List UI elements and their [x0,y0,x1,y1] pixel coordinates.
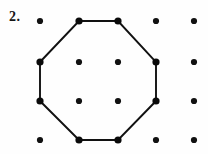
octagon-shape [40,21,156,140]
lattice-dot [191,59,197,65]
octagon-vertex-dot [75,17,82,24]
lattice-dot [115,98,121,104]
octagon-vertex-dot [152,97,159,104]
dot-lattice-diagram [0,0,208,154]
octagon-vertex-dot [36,97,43,104]
octagon-vertex-dot [152,58,159,65]
lattice-dot [37,18,43,24]
lattice-dot [37,137,43,143]
octagon-outline [40,21,156,140]
lattice-dot [191,98,197,104]
lattice-dot [76,98,82,104]
lattice-dot [191,18,197,24]
lattice-dot [153,18,159,24]
octagon-vertex-dot [75,136,82,143]
lattice-dot [76,59,82,65]
octagon-vertex-dot [114,17,121,24]
octagon-vertex-dot [36,58,43,65]
lattice-dot-group [36,17,197,143]
lattice-dot [191,137,197,143]
lattice-dot [153,137,159,143]
figure-canvas: 2. [0,0,208,154]
octagon-vertex-dot [114,136,121,143]
lattice-dot [115,59,121,65]
